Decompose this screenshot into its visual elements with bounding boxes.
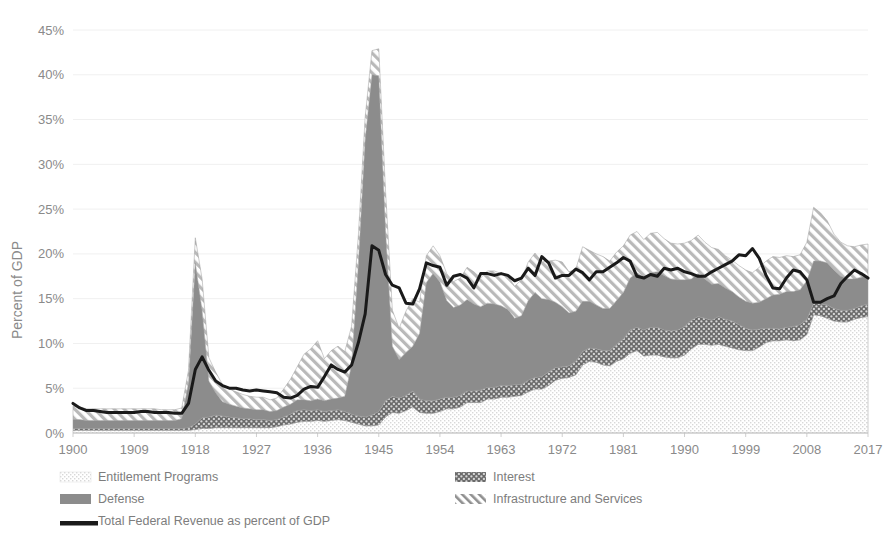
x-axis-tick-label: 1999 (731, 442, 760, 457)
y-axis-tick-label: 0% (45, 426, 64, 441)
y-axis-title: Percent of GDP (9, 241, 25, 339)
y-axis-tick-label: 30% (38, 157, 64, 172)
legend-label: Interest (493, 470, 535, 484)
y-axis-tick-label: 35% (38, 112, 64, 127)
x-axis-tick-label: 1981 (609, 442, 638, 457)
x-axis-tick-label: 1900 (59, 442, 88, 457)
y-axis-tick-label: 10% (38, 336, 64, 351)
y-axis-tick-label: 25% (38, 202, 64, 217)
y-axis-tick-label: 20% (38, 246, 64, 261)
chart-container: 0%5%10%15%20%25%30%35%40%45% 19001909191… (0, 0, 887, 543)
x-axis-tick-label: 1918 (181, 442, 210, 457)
legend-swatch-black-line-swatch (60, 521, 98, 526)
legend-item[interactable]: Entitlement Programs (60, 470, 218, 484)
x-axis-tick-label: 1972 (548, 442, 577, 457)
legend-swatch-dark-dotted-swatch (455, 472, 486, 482)
legend-swatch-diagonal-hatch-swatch (455, 494, 486, 504)
x-axis-tick-label: 1945 (364, 442, 393, 457)
y-axis-tick-label: 40% (38, 67, 64, 82)
x-axis-tick-label: 1963 (487, 442, 516, 457)
x-axis-tick-label: 1927 (242, 442, 271, 457)
y-axis-tick-label: 45% (38, 23, 64, 38)
legend-label: Total Federal Revenue as percent of GDP (98, 514, 330, 528)
legend-label: Infrastructure and Services (493, 492, 642, 506)
x-axis-tick-label: 1909 (120, 442, 149, 457)
legend-item[interactable]: Interest (455, 470, 535, 484)
x-axis-tick-label: 2008 (792, 442, 821, 457)
federal-spending-area-chart: 0%5%10%15%20%25%30%35%40%45% 19001909191… (0, 0, 887, 543)
legend-item[interactable]: Total Federal Revenue as percent of GDP (60, 514, 330, 528)
y-axis-tick-label: 5% (45, 381, 64, 396)
legend-swatch-light-dotted-swatch (60, 472, 91, 482)
legend-item[interactable]: Defense (60, 492, 145, 506)
x-axis-tick-label: 1990 (670, 442, 699, 457)
legend-label: Entitlement Programs (98, 470, 218, 484)
legend-swatch-gray-solid-swatch (60, 494, 91, 504)
x-axis-tick-label: 1936 (303, 442, 332, 457)
x-axis-tick-label: 2017 (854, 442, 883, 457)
legend-label: Defense (98, 492, 145, 506)
legend-item[interactable]: Infrastructure and Services (455, 492, 642, 506)
y-axis-tick-label: 15% (38, 291, 64, 306)
x-axis-tick-label: 1954 (425, 442, 454, 457)
